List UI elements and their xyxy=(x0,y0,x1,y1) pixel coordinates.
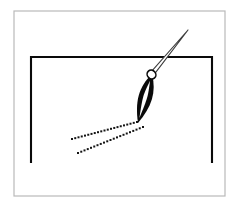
trail-dot xyxy=(97,144,99,146)
canvas-background xyxy=(0,0,243,212)
trail-dot xyxy=(136,129,138,131)
trail-dot xyxy=(126,124,128,126)
trail-dot xyxy=(78,136,80,138)
trail-dot xyxy=(123,134,125,136)
trail-dot xyxy=(107,129,109,131)
trail-dot xyxy=(77,152,79,154)
trail-dot xyxy=(106,140,108,142)
trail-dot xyxy=(142,126,144,128)
trail-dot xyxy=(97,131,99,133)
trail-dot xyxy=(139,127,141,129)
trail-dot xyxy=(130,123,132,125)
trail-dot xyxy=(71,138,73,140)
trail-dot xyxy=(93,146,95,148)
trail-dot xyxy=(133,122,135,124)
trail-dot xyxy=(113,138,115,140)
trail-dot xyxy=(87,134,89,136)
trail-dot xyxy=(123,124,125,126)
trail-dot xyxy=(129,131,131,133)
line-art-illustration xyxy=(0,0,243,212)
trail-dot xyxy=(110,139,112,141)
trail-dot xyxy=(81,135,83,137)
trail-dot xyxy=(91,133,93,135)
trail-dot xyxy=(80,151,82,153)
trail-dot xyxy=(87,148,89,150)
trail-dot xyxy=(113,127,115,129)
trail-dot xyxy=(74,137,76,139)
figure-container: Stylus drawing a dotted line inside an o… xyxy=(0,0,243,212)
trail-dot xyxy=(84,149,86,151)
trail-dot xyxy=(126,133,128,135)
trail-dot xyxy=(103,142,105,144)
trail-dot xyxy=(90,147,92,149)
trail-dot xyxy=(94,132,96,134)
trail-dot xyxy=(84,135,86,137)
trail-dot xyxy=(100,143,102,145)
trail-dot xyxy=(117,126,119,128)
trail-dot xyxy=(110,128,112,130)
trail-dot xyxy=(116,136,118,138)
trail-dot xyxy=(136,121,138,123)
trail-dot xyxy=(132,130,134,132)
trail-dot xyxy=(120,125,122,127)
trail-dot xyxy=(100,130,102,132)
trail-dot xyxy=(104,130,106,132)
trail-dot xyxy=(119,135,121,137)
